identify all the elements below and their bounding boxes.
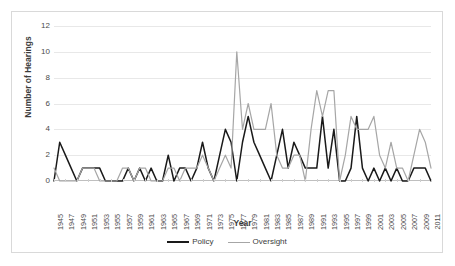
x-axis-tick-mark <box>420 179 421 182</box>
x-axis-tick-mark <box>100 179 101 182</box>
x-axis-tick-mark <box>397 179 398 182</box>
legend-entry-policy[interactable]: Policy <box>167 238 213 246</box>
x-axis-tick-mark <box>168 179 169 182</box>
x-axis-tick-mark <box>385 179 386 182</box>
x-axis-tick-mark <box>54 179 55 182</box>
x-axis-tick-mark <box>65 179 66 182</box>
chart-legend: PolicyOversight <box>12 238 442 246</box>
y-axis-title: Number of Hearings <box>23 17 33 137</box>
x-axis-tick-mark <box>305 179 306 182</box>
x-axis-tick-mark <box>237 179 238 182</box>
x-axis-tick-mark <box>203 179 204 182</box>
series-line-oversight <box>54 52 431 181</box>
x-axis-tick-mark <box>431 179 432 182</box>
x-axis-tick-mark <box>88 179 89 182</box>
chart-container: Number of Hearings 024681012 19451947194… <box>11 11 443 253</box>
x-axis-tick-mark <box>157 179 158 182</box>
legend-swatch-oversight-icon <box>228 242 250 243</box>
legend-swatch-policy-icon <box>167 241 189 243</box>
x-axis-tick-mark <box>351 179 352 182</box>
legend-label: Policy <box>192 238 213 246</box>
series-lines <box>54 26 431 181</box>
x-axis-tick-mark <box>374 179 375 182</box>
y-axis-tick-label: 2 <box>46 151 50 159</box>
x-axis-tick-mark <box>134 179 135 182</box>
x-axis-tick-mark <box>180 179 181 182</box>
legend-label: Oversight <box>253 238 287 246</box>
x-axis-tick-mark <box>294 179 295 182</box>
y-axis-tick-label: 0 <box>46 177 50 185</box>
x-axis-tick-mark <box>282 179 283 182</box>
x-axis-tick-labels: 1945194719491951195319551957195919611963… <box>54 182 431 216</box>
x-axis-tick-mark <box>111 179 112 182</box>
x-axis-title: Year <box>54 218 431 228</box>
y-axis-tick-label: 8 <box>46 74 50 82</box>
x-axis-tick-mark <box>271 179 272 182</box>
y-axis-tick-label: 4 <box>46 125 50 133</box>
x-axis-tick-label: 2011 <box>434 214 441 229</box>
x-axis-tick-mark <box>260 179 261 182</box>
legend-entry-oversight[interactable]: Oversight <box>228 238 287 246</box>
x-axis-tick-mark <box>340 179 341 182</box>
x-axis-tick-mark <box>145 179 146 182</box>
x-axis-tick-mark <box>214 179 215 182</box>
x-axis-tick-mark <box>191 179 192 182</box>
y-axis-tick-label: 12 <box>41 22 50 30</box>
x-axis-tick-mark <box>317 179 318 182</box>
y-axis-tick-label: 6 <box>46 100 50 108</box>
plot-area: 024681012 <box>54 26 431 181</box>
x-axis-tick-mark <box>362 179 363 182</box>
y-axis-tick-label: 10 <box>41 48 50 56</box>
x-axis-tick-mark <box>248 179 249 182</box>
x-axis-tick-mark <box>77 179 78 182</box>
x-axis-tick-mark <box>123 179 124 182</box>
x-axis-tick-mark <box>328 179 329 182</box>
x-axis-tick-mark <box>408 179 409 182</box>
x-axis-tick-mark <box>225 179 226 182</box>
